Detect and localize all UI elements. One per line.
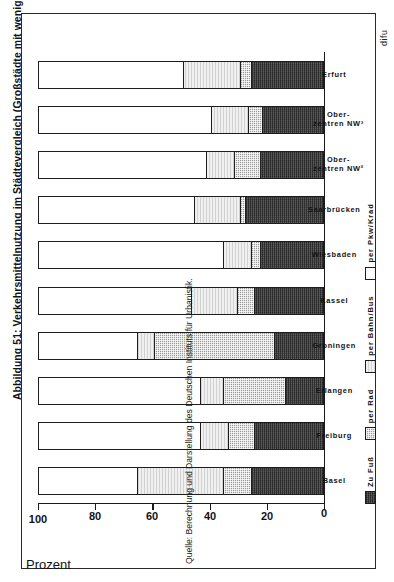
legend-swatch [365, 491, 376, 504]
y-tick-label: 40 [205, 510, 215, 560]
bar-saarbr-cken[interactable] [38, 196, 324, 224]
legend-item-per-pkw-krad[interactable]: per Pkw/Krad [365, 203, 376, 279]
y-tick-mark [152, 504, 153, 510]
y-tick-mark [324, 504, 325, 510]
y-tick-mark [38, 504, 39, 510]
y-tick-label: 0 [319, 510, 329, 560]
bar-groningen[interactable] [38, 332, 324, 360]
bar-segment-per-rad [249, 107, 263, 133]
y-tick-label: 20 [262, 510, 272, 560]
legend-label: per Bahn/Bus [366, 296, 375, 356]
legend-label: per Pkw/Krad [366, 203, 375, 262]
bar-oberzentren-nw-[interactable] [38, 106, 324, 134]
bar-segment-per-pkw-krad [39, 468, 138, 494]
legend-label: per Rad [366, 389, 375, 424]
bar-erlangen[interactable] [38, 377, 324, 405]
bar-segment-zu-fu- [255, 288, 323, 314]
bar-freiburg[interactable] [38, 422, 324, 450]
bar-segment-per-bahn-bus [184, 62, 241, 88]
bar-segment-per-pkw-krad [39, 107, 212, 133]
legend-item-zu-fu-[interactable]: Zu Fuß [365, 456, 376, 504]
y-tick-mark [267, 504, 268, 510]
bar-wiesbaden[interactable] [38, 241, 324, 269]
bar-segment-per-pkw-krad [39, 197, 195, 223]
bar-segment-per-rad [252, 242, 261, 268]
legend-item-per-rad[interactable]: per Rad [365, 389, 376, 441]
y-tick-label: 60 [147, 510, 157, 560]
legend-swatch [365, 267, 376, 280]
bar-segment-per-bahn-bus [201, 423, 229, 449]
bar-segment-per-bahn-bus [224, 242, 252, 268]
y-tick-mark [210, 504, 211, 510]
x-label-erfurt: Erfurt [330, 45, 339, 105]
bar-kassel[interactable] [38, 287, 324, 315]
legend-item-per-bahn-bus[interactable]: per Bahn/Bus [365, 296, 376, 373]
plot-area [38, 52, 324, 504]
bar-segment-per-rad [224, 468, 252, 494]
bar-segment-per-rad [155, 333, 274, 359]
chart-legend: Zu Fußper Radper Bahn/Busper Pkw/Krad [362, 52, 378, 504]
source-note: Quelle: Berechnung und Darstellung des D… [182, 164, 196, 564]
legend-swatch [365, 427, 376, 440]
legend-label: Zu Fuß [366, 456, 375, 487]
y-tick-label: 80 [90, 510, 100, 560]
bar-basel[interactable] [38, 467, 324, 495]
bar-segment-per-bahn-bus [138, 333, 155, 359]
bar-segment-per-pkw-krad [39, 62, 184, 88]
bar-segment-zu-fu- [252, 62, 323, 88]
bar-segment-per-pkw-krad [39, 333, 138, 359]
bar-segment-per-bahn-bus [201, 378, 224, 404]
y-axis-label: Prozent [26, 558, 71, 572]
bar-segment-per-rad [229, 423, 255, 449]
bar-segment-per-bahn-bus [192, 288, 237, 314]
bar-segment-zu-fu- [252, 468, 323, 494]
bar-segment-per-bahn-bus [212, 107, 249, 133]
bar-segment-per-bahn-bus [195, 197, 240, 223]
bar-segment-per-rad [224, 378, 286, 404]
bar-segment-per-rad [241, 62, 252, 88]
legend-swatch [365, 360, 376, 373]
bar-segment-per-pkw-krad [39, 378, 201, 404]
bar-segment-per-bahn-bus [207, 152, 235, 178]
publisher-mark: difu [379, 29, 389, 46]
bar-segment-per-bahn-bus [138, 468, 223, 494]
bar-segment-per-pkw-krad [39, 423, 201, 449]
bar-segment-per-rad [238, 288, 255, 314]
y-tick-label: 100 [33, 510, 43, 560]
bar-segment-zu-fu- [255, 423, 323, 449]
bar-segment-per-rad [235, 152, 261, 178]
bar-segment-per-pkw-krad [39, 288, 192, 314]
y-tick-mark [95, 504, 96, 510]
bar-oberzentren-nw-[interactable] [38, 151, 324, 179]
bar-erfurt[interactable] [38, 61, 324, 89]
